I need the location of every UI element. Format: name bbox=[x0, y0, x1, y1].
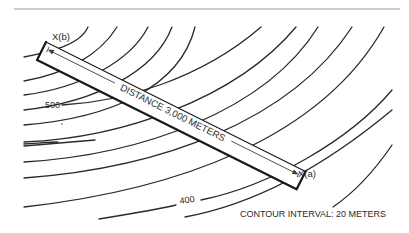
contour-map-diagram: 500 400 DISTANCE 3,000 METERS X(b) X(a) … bbox=[0, 0, 409, 233]
contour-line bbox=[24, 27, 352, 178]
contour-line bbox=[333, 145, 392, 207]
contour-label-400: 400 bbox=[179, 194, 195, 206]
distance-bar: DISTANCE 3,000 METERS bbox=[37, 42, 305, 189]
contour-label-500: 500 bbox=[45, 100, 60, 110]
contour-interval-caption: CONTOUR INTERVAL: 20 METERS bbox=[240, 209, 386, 219]
contour-line-400 bbox=[99, 205, 176, 219]
point-a-label: X(a) bbox=[298, 168, 316, 179]
distance-label: DISTANCE 3,000 METERS bbox=[119, 82, 228, 144]
point-b-label: X(b) bbox=[52, 31, 70, 42]
